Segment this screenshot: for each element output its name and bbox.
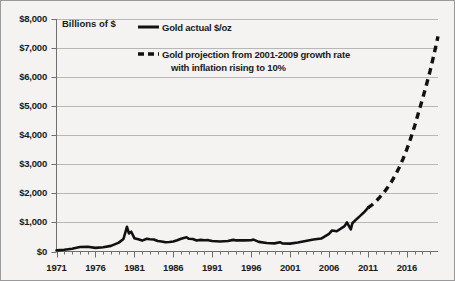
y-axis-label: $2,000 <box>1 187 47 198</box>
x-axis-label: 1986 <box>153 262 193 273</box>
x-axis-label: 2016 <box>387 262 427 273</box>
x-axis-label: 1996 <box>231 262 271 273</box>
y-axis-label: $5,000 <box>1 100 47 111</box>
y-axis-title: Billions of $ <box>62 18 116 29</box>
y-axis-label: $0 <box>1 246 47 257</box>
x-axis-ticks <box>58 252 431 258</box>
y-axis-ticks <box>52 20 57 253</box>
y-axis-label: $7,000 <box>1 42 47 53</box>
x-axis-label: 1971 <box>37 262 77 273</box>
y-axis-label: $4,000 <box>1 129 47 140</box>
y-axis-label: $3,000 <box>1 158 47 169</box>
x-axis-label: 2011 <box>348 262 388 273</box>
legend-label-projection-line1: Gold projection from 2001-2009 growth ra… <box>162 49 350 60</box>
legend-label-projection-line2: with inflation rising to 10% <box>171 62 286 73</box>
x-axis-label: 2001 <box>270 262 310 273</box>
y-axis-label: $8,000 <box>1 13 47 24</box>
x-axis-label: 1976 <box>75 262 115 273</box>
y-axis-label: $1,000 <box>1 216 47 227</box>
y-axis-label: $6,000 <box>1 71 47 82</box>
legend-label-actual: Gold actual $/oz <box>162 22 232 33</box>
x-axis-label: 1991 <box>192 262 232 273</box>
series-gold-projection <box>368 36 438 207</box>
x-axis-label: 1981 <box>114 262 154 273</box>
chart-frame: Billions of $ $0$1,000$2,000$3,000$4,000… <box>0 0 455 281</box>
x-axis-label: 2006 <box>309 262 349 273</box>
series-gold-actual <box>57 208 368 250</box>
gold-price-chart <box>1 1 455 281</box>
